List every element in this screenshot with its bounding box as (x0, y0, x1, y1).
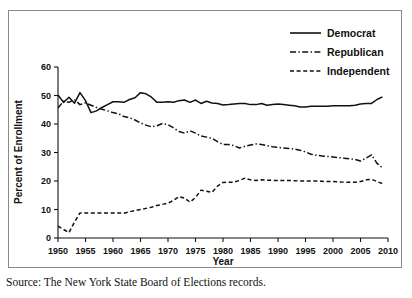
x-tick-label: 1950 (48, 246, 68, 256)
x-tick-label: 1990 (268, 246, 288, 256)
legend-label-democrat: Democrat (327, 27, 376, 39)
y-tick-label: 60 (41, 62, 51, 72)
x-tick-label: 1970 (158, 246, 178, 256)
y-axis-tick-labels: 0102030405060 (41, 62, 51, 243)
y-tick-label: 40 (41, 119, 51, 129)
x-tick-label: 2010 (378, 246, 398, 256)
x-axis-tick-labels: 1950195519601965197019751980198519901995… (48, 246, 398, 256)
x-tick-label: 1965 (130, 246, 150, 256)
series-line-democrat (58, 93, 383, 113)
x-tick-label: 1995 (295, 246, 315, 256)
y-tick-label: 0 (46, 233, 51, 243)
chart-legend: DemocratRepublicanIndependent (290, 27, 390, 77)
legend-label-republican: Republican (327, 46, 384, 58)
x-tick-label: 1960 (103, 246, 123, 256)
legend-label-independent: Independent (327, 65, 390, 77)
figure-container: 0102030405060 19501955196019651970197519… (0, 0, 412, 298)
y-axis-title: Percent of Enrollment (13, 99, 24, 204)
y-tick-label: 50 (41, 91, 51, 101)
x-axis-ticks (58, 238, 388, 242)
series-line-republican (58, 99, 383, 167)
y-tick-label: 20 (41, 176, 51, 186)
y-axis-ticks (54, 67, 58, 238)
x-tick-label: 1980 (213, 246, 233, 256)
y-tick-label: 30 (41, 148, 51, 158)
x-tick-label: 1975 (185, 246, 205, 256)
x-axis-title: Year (212, 256, 233, 267)
enrollment-line-chart: 0102030405060 19501955196019651970197519… (0, 0, 412, 272)
source-note: Source: The New York State Board of Elec… (6, 276, 266, 288)
x-tick-label: 2005 (350, 246, 370, 256)
x-tick-label: 1985 (240, 246, 260, 256)
y-tick-label: 10 (41, 205, 51, 215)
x-tick-label: 2000 (323, 246, 343, 256)
series-line-independent (58, 178, 383, 232)
x-tick-label: 1955 (75, 246, 95, 256)
data-series-group (58, 93, 383, 233)
